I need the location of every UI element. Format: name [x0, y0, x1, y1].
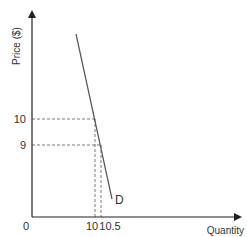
x-tick-10-5: 10.5	[99, 220, 120, 232]
x-tick-10: 10	[86, 220, 98, 232]
reference-lines	[32, 119, 101, 217]
demand-curve-label: D	[115, 193, 124, 207]
x-axis-label: Quantity	[207, 225, 244, 236]
origin-label: 0	[23, 220, 29, 232]
y-tick-10: 10	[14, 113, 26, 125]
demand-chart: D Price ($) Quantity 0 10 9 10 10.5	[0, 0, 247, 237]
demand-curve	[76, 34, 112, 199]
y-axis-label: Price ($)	[11, 27, 22, 65]
y-tick-9: 9	[20, 139, 26, 151]
